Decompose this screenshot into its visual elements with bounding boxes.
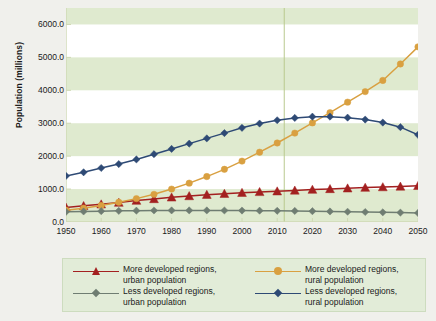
legend-label: More developed regions, urban population <box>123 264 217 286</box>
y-tick-label: 0.0 <box>4 217 64 227</box>
data-marker <box>397 61 403 67</box>
x-tick-label: 1960 <box>81 226 121 236</box>
legend-item: More developed regions, urban population <box>73 264 217 286</box>
x-tick-label: 2030 <box>328 226 368 236</box>
x-tick-label: 2050 <box>398 226 436 236</box>
x-tick-label: 1970 <box>116 226 156 236</box>
legend-item: More developed regions, rural population <box>255 264 399 286</box>
data-marker <box>344 99 350 105</box>
legend-marker <box>274 289 282 297</box>
legend-item: Less developed regions, urban population <box>73 286 215 308</box>
y-tick-label: 4000.0 <box>4 85 64 95</box>
legend-label: Less developed regions, rural population <box>305 286 397 308</box>
y-tick-label: 5000.0 <box>4 52 64 62</box>
legend-swatch <box>73 265 119 277</box>
data-marker <box>256 149 262 155</box>
band-top <box>66 8 418 24</box>
x-tick-label: 2000 <box>222 226 262 236</box>
data-marker <box>362 88 368 94</box>
x-tick-label: 2040 <box>363 226 403 236</box>
x-tick-label: 1950 <box>46 226 86 236</box>
y-tick-label: 1000.0 <box>4 184 64 194</box>
legend-marker-glyph <box>92 289 100 297</box>
data-marker <box>186 180 192 186</box>
plot-area <box>66 8 418 222</box>
data-marker <box>292 130 298 136</box>
legend-swatch <box>255 265 301 277</box>
x-tick-label: 1990 <box>187 226 227 236</box>
data-marker <box>221 166 227 172</box>
population-chart-figure: Population (millions) 0.01000.02000.0300… <box>0 0 436 321</box>
legend-label: Less developed regions, urban population <box>123 286 215 308</box>
band <box>66 57 418 90</box>
legend-marker <box>92 267 100 275</box>
data-marker <box>380 77 386 83</box>
data-marker <box>204 173 210 179</box>
data-marker <box>151 191 157 197</box>
legend-label: More developed regions, rural population <box>305 264 399 286</box>
legend-swatch <box>73 287 119 299</box>
x-tick-label: 1980 <box>152 226 192 236</box>
data-marker <box>133 195 139 201</box>
plot-canvas <box>66 8 418 222</box>
y-tick-label: 3000.0 <box>4 118 64 128</box>
data-marker <box>116 199 122 205</box>
data-marker <box>168 186 174 192</box>
legend-marker-glyph <box>92 267 100 275</box>
x-tick-label: 2020 <box>292 226 332 236</box>
y-tick-label: 2000.0 <box>4 151 64 161</box>
legend-marker <box>92 289 100 297</box>
legend-marker <box>274 267 282 275</box>
legend-marker-glyph <box>274 289 282 297</box>
legend-swatch <box>255 287 301 299</box>
data-marker <box>309 120 315 126</box>
data-marker <box>274 140 280 146</box>
legend-marker-glyph <box>274 267 282 275</box>
legend-item: Less developed regions, rural population <box>255 286 397 308</box>
data-marker <box>239 158 245 164</box>
chart-legend: More developed regions, urban population… <box>62 258 426 312</box>
x-tick-label: 2010 <box>257 226 297 236</box>
y-tick-label: 6000.0 <box>4 19 64 29</box>
